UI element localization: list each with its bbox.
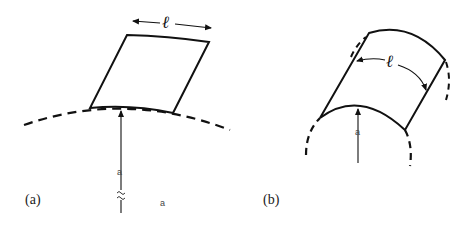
- panel-label-b: (b): [263, 192, 280, 208]
- panel-label-a: (a): [25, 192, 41, 208]
- top-arc-dashed-right: [446, 62, 449, 100]
- circle-arc-dashed-right: [405, 130, 411, 166]
- radius-label-a-secondary: a: [160, 198, 165, 208]
- circle-arc-dashed-left: [306, 118, 320, 155]
- length-label-b: ℓ: [386, 51, 393, 71]
- radius-label-a: a: [117, 167, 122, 177]
- length-arrow-right: [175, 24, 211, 28]
- radius-label-b: a: [355, 127, 360, 137]
- figure-canvas: ℓ a a (a) ℓ a (b): [0, 0, 467, 226]
- length-label-a: ℓ: [162, 12, 169, 32]
- flat-patch: [90, 35, 209, 113]
- curved-patch: [320, 30, 445, 130]
- axis-break-icon: [117, 192, 125, 200]
- panel-b: ℓ a (b): [263, 30, 449, 208]
- circle-arc-dashed: [24, 109, 230, 130]
- panel-a: ℓ a a (a): [24, 12, 230, 213]
- length-arrow-left: [133, 21, 160, 23]
